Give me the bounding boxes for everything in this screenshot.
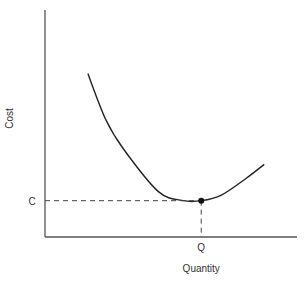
cost-curve-line [88, 74, 264, 202]
cost-quantity-chart: Cost Quantity C Q [0, 0, 306, 282]
x-axis-label: Quantity [183, 263, 220, 274]
x-tick-label-q: Q [197, 242, 205, 253]
minimum-point-marker [198, 198, 204, 204]
y-axis-label: Cost [4, 108, 15, 129]
y-tick-label-c: C [28, 196, 35, 207]
